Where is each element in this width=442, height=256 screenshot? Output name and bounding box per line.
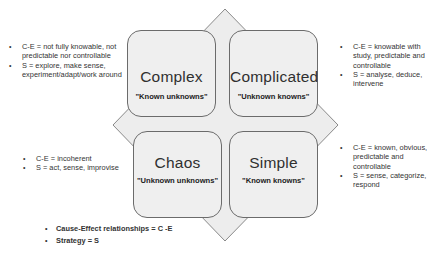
- quadrant-chaos: Chaos "Unknown unknowns": [133, 131, 222, 218]
- simple-notes: •C-E = known, obvious, predictable and c…: [340, 143, 440, 189]
- quadrant-subtitle: "Known unknowns": [124, 92, 219, 101]
- note-text: C-E = known, obvious, predictable and co…: [353, 143, 427, 171]
- bullet-icon: •: [9, 61, 11, 70]
- quadrant-simple: Simple "Known knowns": [229, 131, 318, 218]
- note-text: S = sense, categorize, respond: [353, 171, 426, 189]
- quadrant-title: Chaos: [134, 154, 221, 172]
- note-text: S = act, sense, improvise: [36, 163, 119, 172]
- quadrant-subtitle: "Unknown knowns": [226, 92, 321, 101]
- quadrant-subtitle: "Unknown unknowns": [130, 176, 225, 185]
- legend-item: •Cause-Effect relationships = C -E: [45, 223, 205, 235]
- note-item: •S = act, sense, improvise: [23, 163, 133, 172]
- note-text: S = explore, make sense, experiment/adap…: [22, 61, 122, 79]
- quadrant-complicated: Complicated "Unknown knowns": [229, 30, 318, 117]
- bullet-icon: •: [340, 42, 342, 51]
- chaos-notes: •C-E = incoherent •S = act, sense, impro…: [23, 154, 133, 173]
- note-item: •C-E = knowable with study, predictable …: [340, 42, 440, 70]
- quadrant-title: Simple: [230, 154, 317, 172]
- quadrant-complex: Complex "Known unknowns": [127, 30, 216, 117]
- bullet-icon: •: [45, 235, 47, 247]
- note-text: C-E = knowable with study, predictable a…: [353, 42, 425, 70]
- note-item: •C-E = not fully knowable, not predictab…: [9, 42, 127, 61]
- note-item: •S = explore, make sense, experiment/ada…: [9, 61, 127, 80]
- quadrant-title: Complicated: [230, 68, 317, 86]
- note-item: •C-E = known, obvious, predictable and c…: [340, 143, 440, 171]
- note-item: •S = sense, categorize, respond: [340, 171, 440, 190]
- note-text: C-E = not fully knowable, not predictabl…: [22, 42, 116, 60]
- legend-text: Strategy = S: [56, 236, 99, 245]
- legend-text: Cause-Effect relationships = C -E: [56, 224, 172, 233]
- bullet-icon: •: [340, 143, 342, 152]
- note-item: •S = analyse, deduce, intervene: [340, 70, 440, 89]
- quadrant-subtitle: "Known knowns": [226, 176, 321, 185]
- bullet-icon: •: [9, 42, 11, 51]
- diamond-background: [0, 0, 442, 256]
- bullet-icon: •: [45, 223, 47, 235]
- quadrant-title: Complex: [128, 68, 215, 86]
- bullet-icon: •: [23, 163, 25, 172]
- note-item: •C-E = incoherent: [23, 154, 133, 163]
- bullet-icon: •: [23, 154, 25, 163]
- complicated-notes: •C-E = knowable with study, predictable …: [340, 42, 440, 88]
- note-text: S = analyse, deduce, intervene: [353, 70, 422, 88]
- bullet-icon: •: [340, 70, 342, 79]
- legend-item: •Strategy = S: [45, 235, 205, 247]
- bullet-icon: •: [340, 171, 342, 180]
- complex-notes: •C-E = not fully knowable, not predictab…: [9, 42, 127, 79]
- note-text: C-E = incoherent: [36, 154, 92, 163]
- legend: •Cause-Effect relationships = C -E •Stra…: [45, 223, 205, 246]
